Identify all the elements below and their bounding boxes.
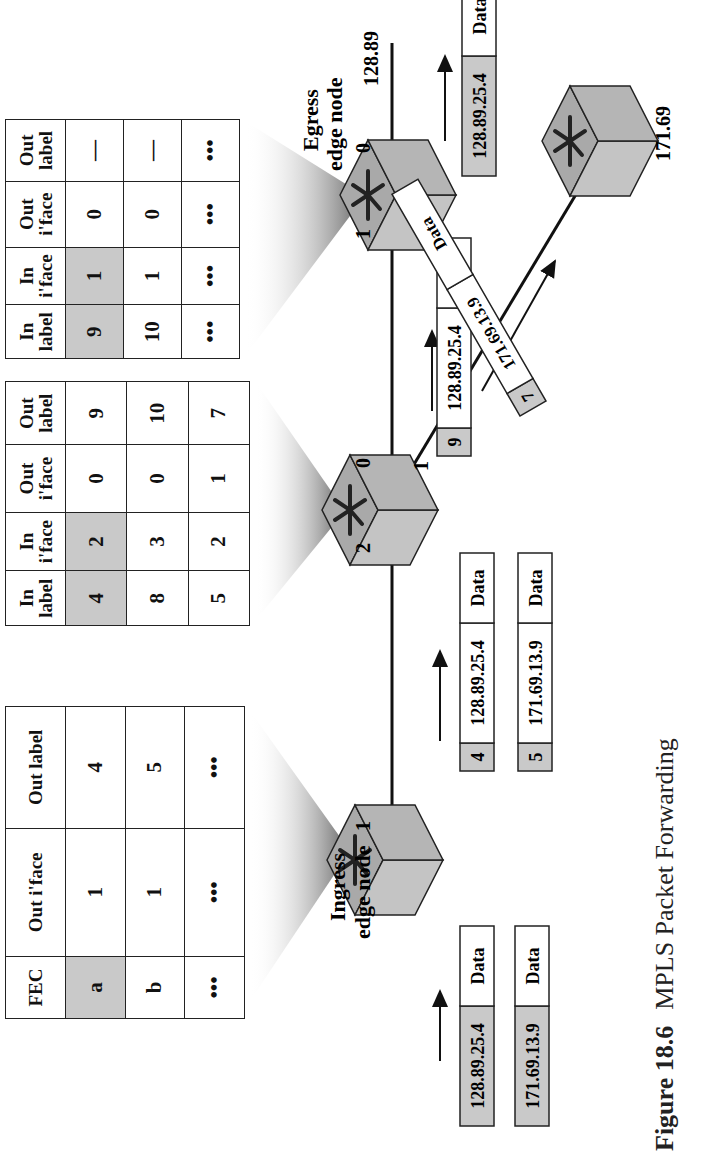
svg-text:4: 4 xyxy=(468,753,488,762)
table-row: 9 1 0 — xyxy=(66,120,124,359)
table-header: In i'face xyxy=(6,512,66,571)
table-row: 5 2 1 7 xyxy=(188,382,249,626)
egress-label-2: edge node xyxy=(322,77,347,171)
table-header: Out label xyxy=(6,382,66,445)
egress-port-in-label: 1 xyxy=(352,229,374,239)
svg-text:128.89.25.4: 128.89.25.4 xyxy=(470,73,490,159)
svg-text:171.69.13.9: 171.69.13.9 xyxy=(526,640,546,726)
table-header: FEC xyxy=(6,956,66,1018)
table-row: 10 1 0 — xyxy=(124,120,182,359)
packet-out: 128.89.25.4 Data xyxy=(462,0,496,176)
table-header: In label xyxy=(6,571,66,626)
table-header: Out i'face xyxy=(6,445,66,512)
table-header: In i'face xyxy=(6,247,66,305)
ingress-port-label: 1 xyxy=(352,821,374,831)
table-header: Out i'face xyxy=(6,828,66,956)
svg-text:128.89.25.4: 128.89.25.4 xyxy=(445,325,465,411)
svg-text:171.69.13.9: 171.69.13.9 xyxy=(523,1023,543,1109)
egress-cone xyxy=(245,121,365,356)
svg-text:Data: Data xyxy=(470,0,490,35)
ingress-forwarding-table: FEC Out i'face Out label a 1 4 b 1 5 •••… xyxy=(5,706,245,1019)
middle-port-out1-label: 1 xyxy=(410,461,432,471)
table-row: ••• ••• ••• xyxy=(185,707,245,1019)
ingress-label-1: Ingress xyxy=(325,853,350,921)
packet-in-1: 128.89.25.4 Data xyxy=(460,926,494,1126)
svg-text:Data: Data xyxy=(523,948,543,985)
table-header: Out label xyxy=(6,120,66,182)
mpls-diagram: 1 2 0 1 1 0 128.89 171.69 Ingress edge n… xyxy=(0,0,710,1151)
branch-router-icon xyxy=(542,86,658,196)
svg-text:Data: Data xyxy=(468,570,488,607)
table-row: b 1 5 xyxy=(125,707,185,1019)
table-header: In label xyxy=(6,305,66,359)
svg-text:5: 5 xyxy=(526,753,546,762)
table-row: 4 2 0 9 xyxy=(66,382,127,626)
table-header: Out i'face xyxy=(6,181,66,247)
svg-text:9: 9 xyxy=(445,438,465,447)
table-header: Out label xyxy=(6,707,66,829)
middle-forwarding-table: In label In i'face Out i'face Out label … xyxy=(5,381,250,626)
svg-text:128.89.25.4: 128.89.25.4 xyxy=(468,1023,488,1109)
svg-text:128.89.25.4: 128.89.25.4 xyxy=(468,640,488,726)
packet-in-2: 171.69.13.9 Data xyxy=(515,926,549,1126)
figure-number: Figure 18.6 xyxy=(650,1026,679,1151)
svg-text:Data: Data xyxy=(468,948,488,985)
svg-text:Data: Data xyxy=(526,570,546,607)
egress-port-out-label: 0 xyxy=(352,143,374,153)
middle-port-in-label: 2 xyxy=(352,543,374,553)
figure-title: MPLS Packet Forwarding xyxy=(650,738,679,1010)
table-row: 8 3 0 10 xyxy=(127,382,188,626)
egress-label-1: Egress xyxy=(298,89,323,151)
figure-caption: Figure 18.6MPLS Packet Forwarding xyxy=(650,738,680,1151)
packet-label-4: 4 128.89.25.4 Data xyxy=(460,553,494,771)
branch-network-label: 171.69 xyxy=(652,106,674,161)
egress-forwarding-table: In label In i'face Out i'face Out label … xyxy=(5,119,240,359)
table-row: ••• ••• ••• ••• xyxy=(182,120,240,359)
egress-network-label: 128.89 xyxy=(360,31,382,86)
middle-port-out0-label: 0 xyxy=(352,458,374,468)
middle-router-icon xyxy=(322,455,438,565)
ingress-label-2: edge node xyxy=(350,845,375,939)
table-row: a 1 4 xyxy=(66,707,126,1019)
packet-label-5: 5 171.69.13.9 Data xyxy=(518,553,552,771)
